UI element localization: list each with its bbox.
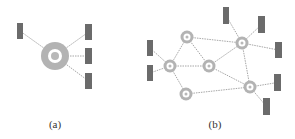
mesh-node-c-dot xyxy=(208,65,211,68)
device-icon xyxy=(263,98,270,115)
mesh-node-e-dot xyxy=(241,42,244,45)
link-edge xyxy=(242,43,250,87)
device-icon xyxy=(258,16,265,33)
caption-a: (a) xyxy=(49,118,61,130)
device-icon xyxy=(274,74,281,91)
mesh-node-f-dot xyxy=(249,86,252,89)
device-icon xyxy=(17,23,23,39)
mesh-node-b-dot xyxy=(169,65,172,68)
link-edge xyxy=(187,37,242,43)
caption-b: (b) xyxy=(209,118,222,130)
device-icon xyxy=(85,73,92,89)
panel-a-star-topology xyxy=(17,23,92,89)
mesh-node-d-dot xyxy=(185,93,188,96)
link-edge xyxy=(209,66,250,87)
device-icon xyxy=(275,42,282,58)
device-icon xyxy=(147,40,153,56)
device-icon xyxy=(85,48,92,64)
network-diagram xyxy=(0,0,295,139)
device-icon xyxy=(147,65,153,81)
device-icon xyxy=(223,7,229,24)
link-edge xyxy=(186,87,250,94)
mesh-node-a-dot xyxy=(186,36,189,39)
hub-node-dot xyxy=(51,52,59,60)
device-icon xyxy=(85,24,92,40)
panel-b-mesh-topology xyxy=(147,7,282,115)
